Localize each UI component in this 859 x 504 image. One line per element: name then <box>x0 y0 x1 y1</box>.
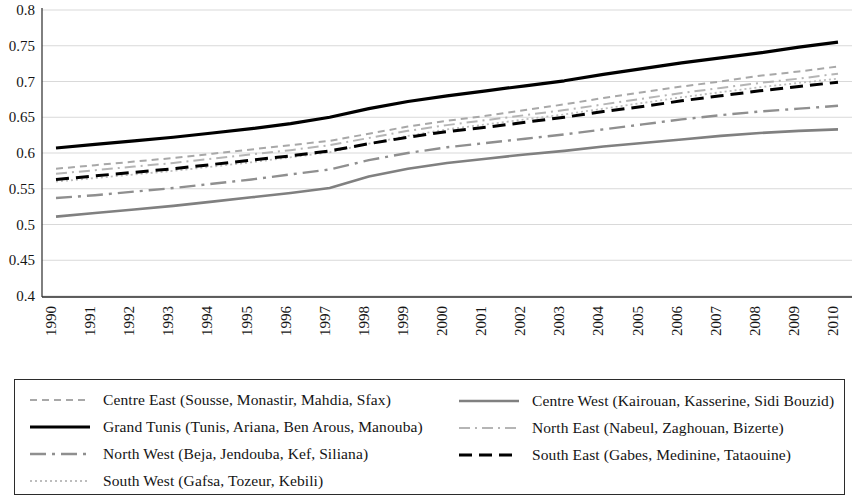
legend-swatch <box>458 448 520 462</box>
plot-area: 0.80.750.70.650.60.550.50.450.4 19901991… <box>0 0 859 370</box>
series-line <box>56 106 838 198</box>
legend-item[interactable]: North West (Beja, Jendouba, Kef, Siliana… <box>29 441 444 468</box>
series-line <box>56 74 838 174</box>
series-line <box>56 129 838 216</box>
legend-swatch <box>29 393 91 407</box>
legend-item[interactable]: Centre East (Sousse, Monastir, Mahdia, S… <box>29 387 444 414</box>
legend-item-label: Centre East (Sousse, Monastir, Mahdia, S… <box>103 391 391 409</box>
x-tick-label: 2000 <box>434 306 450 336</box>
legend-item-label: Centre West (Kairouan, Kasserine, Sidi B… <box>532 392 834 410</box>
y-tick-label: 0.7 <box>16 74 35 90</box>
data-series-group <box>56 42 838 216</box>
legend-swatch <box>458 421 520 435</box>
x-tick-label: 2009 <box>786 306 802 336</box>
legend-column-left: Centre East (Sousse, Monastir, Mahdia, S… <box>15 387 444 494</box>
x-tick-label: 1996 <box>278 306 294 337</box>
legend-item[interactable]: Centre West (Kairouan, Kasserine, Sidi B… <box>458 387 844 414</box>
x-tick-label: 1992 <box>121 306 137 336</box>
chart-legend: Centre East (Sousse, Monastir, Mahdia, S… <box>14 379 845 495</box>
legend-item[interactable]: North East (Nabeul, Zaghouan, Bizerte) <box>458 414 844 441</box>
x-tick-label: 2007 <box>708 306 724 337</box>
y-axis-tick-labels: 0.80.750.70.650.60.550.50.450.4 <box>9 2 36 304</box>
x-tick-label: 1999 <box>395 306 411 336</box>
gridlines-group <box>42 10 852 296</box>
x-tick-label: 1994 <box>199 306 215 337</box>
legend-item[interactable]: South West (Gafsa, Tozeur, Kebili) <box>29 467 444 494</box>
legend-item-label: South West (Gafsa, Tozeur, Kebili) <box>103 472 323 490</box>
series-line <box>56 79 838 182</box>
y-tick-label: 0.4 <box>16 288 35 304</box>
x-tick-label: 1993 <box>160 306 176 336</box>
legend-column-right: Centre West (Kairouan, Kasserine, Sidi B… <box>444 387 844 494</box>
x-tick-label: 1995 <box>239 306 255 336</box>
y-tick-label: 0.75 <box>9 38 35 54</box>
x-tick-label: 1997 <box>317 306 333 337</box>
legend-item-label: Grand Tunis (Tunis, Ariana, Ben Arous, M… <box>103 418 423 436</box>
y-tick-label: 0.6 <box>16 145 35 161</box>
y-tick-label: 0.8 <box>16 2 35 18</box>
x-tick-label: 1991 <box>82 306 98 336</box>
legend-swatch <box>29 474 91 488</box>
legend-item-label: South East (Gabes, Medinine, Tataouine) <box>532 446 791 464</box>
line-chart-svg: 0.80.750.70.650.60.550.50.450.4 19901991… <box>0 0 859 370</box>
legend-item[interactable]: South East (Gabes, Medinine, Tataouine) <box>458 441 844 468</box>
y-tick-label: 0.55 <box>9 181 35 197</box>
x-tick-label: 2003 <box>551 306 567 336</box>
y-tick-label: 0.65 <box>9 109 35 125</box>
x-tick-label: 2010 <box>825 306 841 336</box>
x-tick-label: 2001 <box>473 306 489 336</box>
x-tick-label: 1998 <box>356 306 372 336</box>
legend-swatch <box>29 420 91 434</box>
x-tick-label: 2005 <box>630 306 646 336</box>
x-tick-label: 2008 <box>747 306 763 336</box>
x-axis-tick-labels: 1990199119921993199419951996199719981999… <box>43 306 841 337</box>
x-tick-label: 2004 <box>590 306 606 337</box>
x-tick-label: 1990 <box>43 306 59 336</box>
y-tick-label: 0.45 <box>9 252 35 268</box>
legend-item-label: North East (Nabeul, Zaghouan, Bizerte) <box>532 419 784 437</box>
x-tick-label: 2002 <box>512 306 528 336</box>
y-tick-label: 0.5 <box>16 217 35 233</box>
legend-item-label: North West (Beja, Jendouba, Kef, Siliana… <box>103 445 368 463</box>
legend-swatch <box>29 447 91 461</box>
x-tick-label: 2006 <box>669 306 685 337</box>
legend-swatch <box>458 394 520 408</box>
legend-item[interactable]: Grand Tunis (Tunis, Ariana, Ben Arous, M… <box>29 414 444 441</box>
chart-figure: 0.80.750.70.650.60.550.50.450.4 19901991… <box>0 0 859 504</box>
